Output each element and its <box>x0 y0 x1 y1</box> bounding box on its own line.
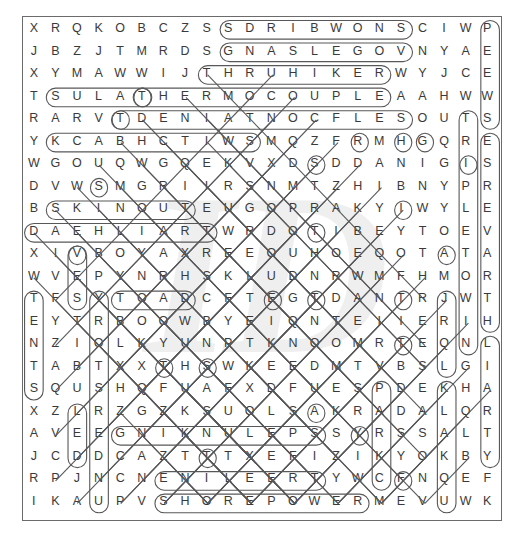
grid-cell-r14-c11[interactable]: K <box>261 332 283 355</box>
grid-cell-r9-c17[interactable]: Y <box>390 220 412 243</box>
grid-cell-r5-c3[interactable]: A <box>88 130 110 153</box>
grid-cell-r3-c6[interactable]: H <box>153 85 175 108</box>
grid-cell-r2-c18[interactable]: Y <box>412 62 434 85</box>
grid-cell-r10-c4[interactable]: O <box>109 242 131 265</box>
grid-cell-r12-c7[interactable]: D <box>174 287 196 310</box>
grid-cell-r12-c19[interactable]: J <box>433 287 455 310</box>
grid-cell-r10-c2[interactable]: V <box>66 242 88 265</box>
grid-cell-r9-c13[interactable]: T <box>304 220 326 243</box>
grid-cell-r0-c7[interactable]: Z <box>174 17 196 40</box>
grid-cell-r1-c1[interactable]: B <box>45 40 67 63</box>
grid-cell-r2-c9[interactable]: H <box>217 62 239 85</box>
grid-cell-r13-c13[interactable]: N <box>304 310 326 333</box>
grid-cell-r2-c20[interactable]: C <box>455 62 477 85</box>
grid-cell-r0-c15[interactable]: O <box>347 17 369 40</box>
grid-cell-r16-c4[interactable]: H <box>109 377 131 400</box>
grid-cell-r13-c7[interactable]: W <box>174 310 196 333</box>
grid-cell-r5-c11[interactable]: M <box>261 130 283 153</box>
grid-cell-r13-c1[interactable]: Y <box>45 310 67 333</box>
grid-cell-r5-c19[interactable]: Q <box>433 130 455 153</box>
grid-cell-r11-c20[interactable]: O <box>455 265 477 288</box>
grid-cell-r16-c6[interactable]: F <box>153 377 175 400</box>
grid-cell-r20-c17[interactable]: F <box>390 467 412 490</box>
grid-cell-r1-c2[interactable]: Z <box>66 40 88 63</box>
grid-cell-r9-c14[interactable]: I <box>325 220 347 243</box>
grid-cell-r1-c9[interactable]: G <box>217 40 239 63</box>
grid-cell-r0-c17[interactable]: S <box>390 17 412 40</box>
grid-cell-r16-c15[interactable]: S <box>347 377 369 400</box>
grid-cell-r10-c3[interactable]: B <box>88 242 110 265</box>
grid-cell-r8-c5[interactable]: O <box>131 197 153 220</box>
grid-cell-r5-c18[interactable]: G <box>412 130 434 153</box>
grid-cell-r5-c12[interactable]: Q <box>282 130 304 153</box>
grid-cell-r2-c11[interactable]: U <box>261 62 283 85</box>
grid-cell-r20-c9[interactable]: L <box>217 467 239 490</box>
grid-cell-r19-c1[interactable]: C <box>45 445 67 468</box>
grid-cell-r4-c11[interactable]: N <box>261 107 283 130</box>
grid-cell-r10-c14[interactable]: O <box>325 242 347 265</box>
grid-cell-r8-c8[interactable]: E <box>196 197 218 220</box>
grid-cell-r4-c12[interactable]: O <box>282 107 304 130</box>
grid-cell-r19-c18[interactable]: O <box>412 445 434 468</box>
grid-cell-r15-c2[interactable]: B <box>66 355 88 378</box>
grid-cell-r1-c8[interactable]: S <box>196 40 218 63</box>
grid-cell-r3-c3[interactable]: L <box>88 85 110 108</box>
grid-cell-r5-c4[interactable]: B <box>109 130 131 153</box>
grid-cell-r4-c7[interactable]: N <box>174 107 196 130</box>
grid-cell-r15-c6[interactable]: T <box>153 355 175 378</box>
grid-cell-r17-c2[interactable]: L <box>66 400 88 423</box>
grid-cell-r10-c12[interactable]: U <box>282 242 304 265</box>
grid-cell-r4-c19[interactable]: U <box>433 107 455 130</box>
grid-cell-r2-c5[interactable]: W <box>131 62 153 85</box>
grid-cell-r5-c6[interactable]: C <box>153 130 175 153</box>
grid-cell-r15-c3[interactable]: T <box>88 355 110 378</box>
grid-cell-r14-c16[interactable]: R <box>369 332 391 355</box>
grid-cell-r20-c10[interactable]: E <box>239 467 261 490</box>
grid-cell-r9-c7[interactable]: R <box>174 220 196 243</box>
grid-cell-r12-c12[interactable]: G <box>282 287 304 310</box>
grid-cell-r14-c6[interactable]: Y <box>153 332 175 355</box>
grid-cell-r1-c7[interactable]: D <box>174 40 196 63</box>
grid-cell-r9-c21[interactable]: V <box>476 220 498 243</box>
grid-cell-r13-c2[interactable]: T <box>66 310 88 333</box>
grid-cell-r10-c16[interactable]: Q <box>369 242 391 265</box>
grid-cell-r20-c2[interactable]: J <box>66 467 88 490</box>
grid-cell-r3-c16[interactable]: E <box>369 85 391 108</box>
grid-cell-r20-c0[interactable]: R <box>23 467 45 490</box>
grid-cell-r3-c9[interactable]: M <box>217 85 239 108</box>
grid-cell-r21-c2[interactable]: A <box>66 490 88 513</box>
grid-cell-r8-c12[interactable]: P <box>282 197 304 220</box>
grid-cell-r17-c0[interactable]: X <box>23 400 45 423</box>
grid-cell-r13-c0[interactable]: E <box>23 310 45 333</box>
grid-cell-r4-c4[interactable]: T <box>109 107 131 130</box>
grid-cell-r13-c20[interactable]: I <box>455 310 477 333</box>
grid-cell-r5-c16[interactable]: M <box>369 130 391 153</box>
grid-cell-r13-c14[interactable]: T <box>325 310 347 333</box>
grid-cell-r13-c10[interactable]: E <box>239 310 261 333</box>
grid-cell-r7-c21[interactable]: R <box>476 175 498 198</box>
grid-cell-r8-c13[interactable]: R <box>304 197 326 220</box>
grid-cell-r4-c20[interactable]: T <box>455 107 477 130</box>
grid-cell-r2-c17[interactable]: W <box>390 62 412 85</box>
grid-cell-r19-c14[interactable]: Z <box>325 445 347 468</box>
grid-cell-r7-c9[interactable]: R <box>217 175 239 198</box>
grid-cell-r16-c9[interactable]: F <box>217 377 239 400</box>
grid-cell-r3-c18[interactable]: A <box>412 85 434 108</box>
grid-cell-r8-c0[interactable]: B <box>23 197 45 220</box>
grid-cell-r18-c18[interactable]: S <box>412 422 434 445</box>
grid-cell-r9-c16[interactable]: E <box>369 220 391 243</box>
grid-cell-r9-c5[interactable]: I <box>131 220 153 243</box>
grid-cell-r15-c14[interactable]: M <box>325 355 347 378</box>
grid-cell-r7-c17[interactable]: B <box>390 175 412 198</box>
grid-cell-r8-c21[interactable]: E <box>476 197 498 220</box>
grid-cell-r10-c8[interactable]: R <box>196 242 218 265</box>
grid-cell-r17-c5[interactable]: G <box>131 400 153 423</box>
grid-cell-r11-c13[interactable]: N <box>304 265 326 288</box>
grid-cell-r14-c18[interactable]: E <box>412 332 434 355</box>
grid-cell-r13-c5[interactable]: O <box>131 310 153 333</box>
grid-cell-r3-c2[interactable]: U <box>66 85 88 108</box>
grid-cell-r20-c21[interactable]: F <box>476 467 498 490</box>
grid-cell-r1-c5[interactable]: M <box>131 40 153 63</box>
grid-cell-r3-c15[interactable]: L <box>347 85 369 108</box>
grid-cell-r9-c11[interactable]: D <box>261 220 283 243</box>
